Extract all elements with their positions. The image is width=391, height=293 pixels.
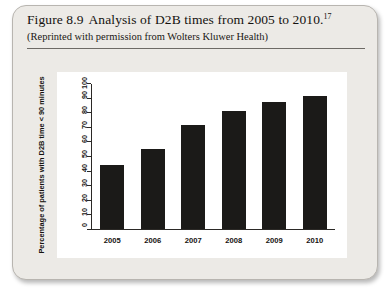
y-axis-tick-label: 0 [81, 223, 88, 227]
chart-panel: Percentage of patients with D2B time < 9… [57, 72, 347, 258]
bar[interactable] [100, 165, 124, 229]
caption-title: Figure 8.9Analysis of D2B times from 200… [27, 12, 365, 28]
bar[interactable] [181, 125, 205, 229]
y-axis-tick-label: 20 [81, 194, 88, 202]
bar-group: 2007 [173, 84, 214, 229]
x-axis-tick-label: 2009 [266, 236, 283, 245]
y-axis-tick-label: 10 [81, 208, 88, 216]
y-axis-tick-label: 70 [81, 121, 88, 129]
y-axis-tick [87, 229, 91, 230]
caption-text: Analysis of D2B times from 2005 to 2010. [89, 12, 324, 27]
footnote-marker: 17 [324, 12, 332, 21]
y-axis-tick-label: 100 [81, 77, 88, 89]
figure-number: Figure 8.9 [27, 12, 84, 27]
y-axis-tick-label: 80 [81, 106, 88, 114]
figure-card: Figure 8.9Analysis of D2B times from 200… [12, 5, 378, 280]
bar-group: 2005 [92, 84, 133, 229]
figure-caption: Figure 8.9Analysis of D2B times from 200… [13, 6, 377, 49]
bar[interactable] [222, 111, 246, 229]
bar-group: 2008 [214, 84, 255, 229]
y-axis-label: Percentage of patients with D2B time < 9… [35, 72, 49, 258]
bar[interactable] [141, 149, 165, 229]
y-axis-tick-label: 30 [81, 179, 88, 187]
x-axis-tick-label: 2007 [185, 236, 202, 245]
bar[interactable] [262, 102, 286, 229]
bar-group: 2009 [254, 84, 295, 229]
bar[interactable] [303, 96, 327, 229]
x-axis-tick-label: 2010 [306, 236, 323, 245]
caption-divider [27, 48, 365, 49]
y-axis-tick-label: 40 [81, 164, 88, 172]
x-axis-line [91, 229, 335, 230]
bar-group: 2006 [133, 84, 174, 229]
bar-series: 200520062007200820092010 [92, 84, 335, 229]
x-axis-tick-label: 2008 [225, 236, 242, 245]
x-axis-tick-label: 2006 [144, 236, 161, 245]
caption-attribution: (Reprinted with permission from Wolters … [27, 31, 365, 44]
plot-axes: 0102030405060708090100 20052006200720082… [91, 84, 335, 230]
y-axis-tick-label: 50 [81, 150, 88, 158]
bar-group: 2010 [295, 84, 336, 229]
x-axis-tick-label: 2005 [104, 236, 121, 245]
y-axis-tick-label: 60 [81, 135, 88, 143]
y-axis-tick-label: 90 [81, 91, 88, 99]
